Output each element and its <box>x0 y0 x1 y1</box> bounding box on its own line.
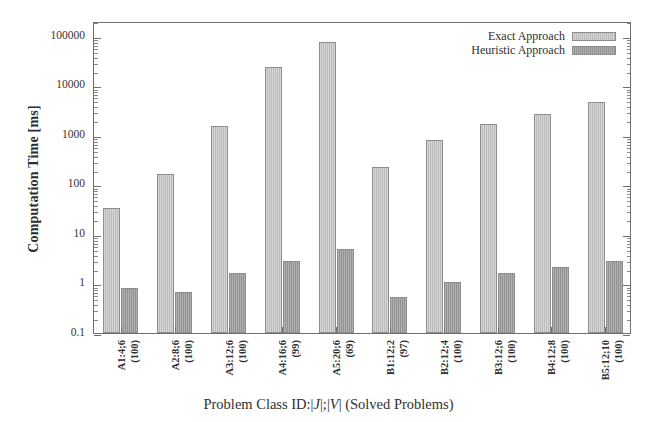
y-tick-minor-right <box>627 40 631 41</box>
y-tick-major <box>94 335 101 336</box>
y-tick-minor-right <box>627 194 631 195</box>
y-tick-minor-right <box>627 247 631 248</box>
y-tick-minor <box>94 102 98 103</box>
bar-group <box>265 23 300 333</box>
y-tick-minor <box>94 191 98 192</box>
y-tick-minor <box>94 139 98 140</box>
y-tick-minor-right <box>627 221 631 222</box>
y-tick-minor <box>94 40 98 41</box>
y-tick-minor-right <box>627 271 631 272</box>
chart-legend: Exact Approach Heuristic Approach <box>465 27 620 60</box>
y-tick-minor <box>94 90 98 91</box>
y-tick-minor-right <box>627 244 631 245</box>
x-tick <box>498 327 499 333</box>
y-tick-label: 1 <box>15 276 85 288</box>
bar-exact-approach <box>426 140 443 333</box>
y-tick-minor <box>94 290 98 291</box>
y-tick-major <box>94 186 101 187</box>
bar-exact-approach <box>211 126 228 333</box>
y-tick-minor <box>94 194 98 195</box>
y-tick-minor-right <box>627 262 631 263</box>
y-tick-minor <box>94 73 98 74</box>
x-tick <box>175 327 176 333</box>
y-tick-minor <box>94 221 98 222</box>
y-tick-minor <box>94 262 98 263</box>
y-tick-minor <box>94 49 98 50</box>
y-tick-major <box>94 87 101 88</box>
y-tick-minor-right <box>627 43 631 44</box>
x-axis-title-v: V <box>330 396 339 412</box>
plot-inner <box>94 23 630 333</box>
bar-heuristic-approach <box>390 297 407 333</box>
x-tick <box>390 327 391 333</box>
y-tick-minor <box>94 142 98 143</box>
y-tick-minor <box>94 163 98 164</box>
legend-item-exact: Exact Approach <box>471 29 616 43</box>
y-tick-minor <box>94 293 98 294</box>
y-tick-minor <box>94 152 98 153</box>
y-tick-label: 100 <box>15 177 85 189</box>
y-tick-minor-right <box>627 95 631 96</box>
y-tick-minor-right <box>627 46 631 47</box>
x-tick <box>444 327 445 333</box>
y-tick-minor-right <box>627 212 631 213</box>
y-tick-minor-right <box>627 256 631 257</box>
bar-exact-approach <box>534 114 551 333</box>
y-tick-minor-right <box>627 152 631 153</box>
y-tick-major-right <box>623 285 630 286</box>
x-axis-title: Problem Class ID:|J|;|V| (Solved Problem… <box>0 396 657 413</box>
x-tick <box>229 327 230 333</box>
y-tick-minor <box>94 288 98 289</box>
y-tick-minor <box>94 201 98 202</box>
y-tick-major-right <box>623 335 630 336</box>
y-tick-minor <box>94 311 98 312</box>
bar-heuristic-approach <box>498 273 515 333</box>
y-tick-minor-right <box>627 157 631 158</box>
bar-exact-approach <box>588 102 605 333</box>
y-tick-minor <box>94 58 98 59</box>
bar-heuristic-approach <box>229 273 246 333</box>
y-tick-minor <box>94 238 98 239</box>
legend-label-exact: Exact Approach <box>488 29 565 44</box>
y-tick-minor <box>94 107 98 108</box>
y-tick-minor-right <box>627 320 631 321</box>
y-tick-minor <box>94 148 98 149</box>
x-tick <box>336 327 337 333</box>
y-tick-minor <box>94 206 98 207</box>
y-tick-minor <box>94 320 98 321</box>
bar-heuristic-approach <box>444 282 461 333</box>
bar-heuristic-approach <box>337 249 354 333</box>
y-tick-minor <box>94 98 98 99</box>
bar-heuristic-approach <box>175 292 192 333</box>
bar-group <box>480 23 515 333</box>
y-tick-major <box>94 137 101 138</box>
y-tick-minor <box>94 247 98 248</box>
bar-group <box>426 23 461 333</box>
y-tick-minor-right <box>627 90 631 91</box>
y-tick-minor-right <box>627 201 631 202</box>
y-tick-major-right <box>623 38 630 39</box>
bar-heuristic-approach <box>283 261 300 333</box>
y-tick-minor-right <box>627 163 631 164</box>
bar-exact-approach <box>372 167 389 333</box>
y-tick-minor-right <box>627 189 631 190</box>
y-tick-minor-right <box>627 290 631 291</box>
bar-heuristic-approach <box>552 267 569 333</box>
y-tick-major <box>94 285 101 286</box>
y-tick-minor <box>94 157 98 158</box>
bar-exact-approach <box>319 42 336 333</box>
y-tick-label: 10 <box>15 227 85 239</box>
legend-item-heuristic: Heuristic Approach <box>471 43 616 57</box>
bar-group <box>534 23 569 333</box>
y-tick-minor <box>94 95 98 96</box>
bar-group <box>211 23 246 333</box>
y-tick-minor <box>94 251 98 252</box>
x-tick <box>551 327 552 333</box>
y-tick-minor-right <box>627 293 631 294</box>
x-axis-title-post: | (Solved Problems) <box>339 396 454 412</box>
y-tick-minor-right <box>627 49 631 50</box>
y-tick-minor <box>94 189 98 190</box>
y-tick-minor-right <box>627 142 631 143</box>
y-tick-minor-right <box>627 53 631 54</box>
bar-group <box>372 23 407 333</box>
